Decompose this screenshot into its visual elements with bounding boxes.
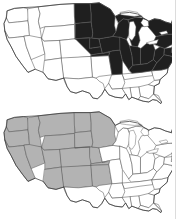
state-TX[interactable]: [64, 77, 105, 99]
figure-container: [0, 0, 176, 219]
state-WY[interactable]: [42, 24, 76, 41]
states-layer-top: [4, 3, 172, 104]
state-ND[interactable]: [74, 113, 91, 133]
us-map-bottom: [0, 108, 172, 218]
state-CO[interactable]: [60, 147, 91, 168]
state-WY[interactable]: [42, 133, 76, 150]
state-SD[interactable]: [75, 131, 93, 148]
state-OK[interactable]: [91, 165, 112, 187]
state-SD[interactable]: [75, 22, 93, 39]
map-panel-top: [0, 2, 172, 106]
lake-erie-icon: [146, 149, 158, 154]
state-TX[interactable]: [64, 186, 105, 208]
state-MN[interactable]: [90, 112, 116, 148]
state-MN[interactable]: [90, 3, 116, 39]
us-map-top: [0, 2, 172, 106]
state-MD[interactable]: [164, 157, 172, 166]
state-NM[interactable]: [62, 56, 93, 78]
states-layer-bottom: [4, 112, 172, 213]
map-panel-bottom: [0, 108, 172, 218]
state-UT[interactable]: [42, 38, 62, 60]
state-NM[interactable]: [62, 165, 93, 187]
state-OK[interactable]: [91, 56, 112, 78]
lake-erie-icon: [146, 40, 158, 45]
state-AR[interactable]: [109, 183, 125, 198]
state-UT[interactable]: [42, 147, 62, 169]
state-ND[interactable]: [74, 4, 91, 24]
state-AR[interactable]: [109, 74, 125, 89]
